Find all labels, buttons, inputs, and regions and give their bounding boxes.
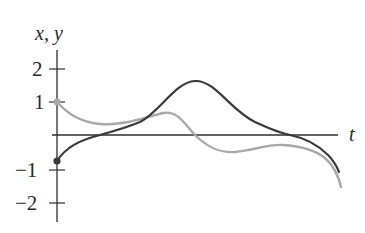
y-tick-label-minus-2: −2 bbox=[15, 191, 37, 215]
y-tick-label-2: 2 bbox=[32, 57, 43, 81]
series-y-curve bbox=[57, 102, 341, 187]
t-axis-title: t bbox=[349, 123, 355, 145]
series-y-start-marker bbox=[54, 99, 61, 106]
y-axis-title: x, y bbox=[34, 22, 63, 45]
y-tick-label-1: 1 bbox=[34, 90, 45, 114]
series-x-curve bbox=[57, 81, 339, 172]
chart: x, y 2 1 −1 −2 t bbox=[0, 0, 365, 233]
series-x-start-marker bbox=[53, 157, 60, 164]
y-tick-label-minus-1: −1 bbox=[15, 158, 37, 182]
